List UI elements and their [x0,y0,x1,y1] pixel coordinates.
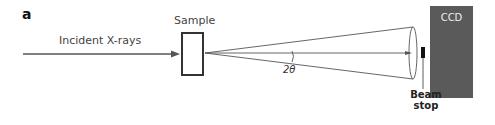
incident-beam-arrowhead [171,51,180,58]
beam-stop-label-line1: Beam [400,89,452,100]
panel-label: a [22,6,31,22]
transmitted-beam-arrowhead [405,51,412,55]
ccd-label: CCD [430,12,473,23]
cone-lower-edge [205,53,413,79]
beam-stop-label-line2: stop [400,100,452,111]
beam-stop-label: Beam stop [400,89,452,111]
angle-label: 2θ [283,64,295,75]
sample-label: Sample [174,14,215,27]
beam-stop-block [421,47,425,58]
cone-upper-edge [205,27,413,53]
incident-xrays-label: Incident X-rays [59,34,141,47]
sample-box [182,33,203,75]
